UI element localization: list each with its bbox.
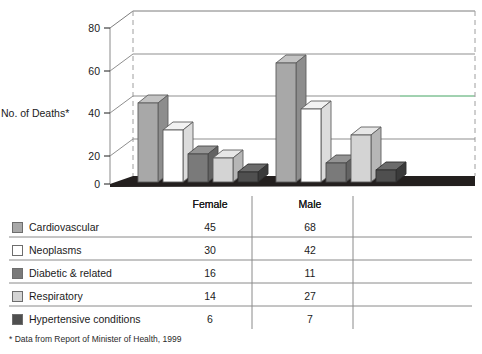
- cell-male-hypertensive-conditions: 7: [270, 313, 350, 326]
- cell-female-cardiovascular: 45: [170, 221, 250, 234]
- cell-male-respiratory: 27: [270, 290, 350, 303]
- category-label-female: Female: [170, 198, 250, 210]
- y-axis-ticks: [104, 28, 110, 184]
- cell-female-hypertensive-conditions: 6: [170, 313, 250, 326]
- footnote-text: * Data from Report of Minister of Health…: [9, 334, 181, 344]
- legend-label-diabetic-and-related: Diabetic & related: [29, 267, 112, 280]
- y-axis-title: No. of Deaths*: [1, 108, 69, 119]
- cell-female-diabetic-and-related: 16: [170, 267, 250, 280]
- legend-label-hypertensive-conditions: Hypertensive conditions: [29, 313, 140, 326]
- legend-swatch-cardiovascular: [12, 222, 23, 233]
- legend-data-table: Female Male Cardiovascular 45 68 Neoplas…: [0, 196, 482, 332]
- legend-swatch-hypertensive-conditions: [12, 314, 23, 325]
- table-row[interactable]: Hypertensive conditions 6 7: [0, 309, 482, 332]
- legend-label-respiratory: Respiratory: [29, 290, 83, 303]
- legend-label-cardiovascular: Cardiovascular: [29, 221, 99, 234]
- chart-plot-svg: [0, 6, 482, 196]
- cell-male-cardiovascular: 68: [270, 221, 350, 234]
- y-tick-0: 0: [74, 179, 100, 189]
- table-row[interactable]: Respiratory 14 27: [0, 286, 482, 309]
- legend-swatch-diabetic-and-related: [12, 268, 23, 279]
- cropped-title-remnant: [0, 0, 482, 3]
- legend-label-neoplasms: Neoplasms: [29, 244, 82, 257]
- cell-female-respiratory: 14: [170, 290, 250, 303]
- cell-female-neoplasms: 30: [170, 244, 250, 257]
- legend-swatch-neoplasms: [12, 245, 23, 256]
- y-tick-20: 20: [74, 151, 100, 161]
- y-tick-80: 80: [74, 23, 100, 33]
- table-row[interactable]: Cardiovascular 45 68: [0, 217, 482, 240]
- y-tick-60: 60: [74, 66, 100, 76]
- cell-male-neoplasms: 42: [270, 244, 350, 257]
- category-label-male: Male: [270, 198, 350, 210]
- y-tick-40: 40: [74, 108, 100, 118]
- table-row[interactable]: Neoplasms 30 42: [0, 240, 482, 263]
- cell-male-diabetic-and-related: 11: [270, 267, 350, 280]
- table-row[interactable]: Diabetic & related 16 11: [0, 263, 482, 286]
- bar-chart: 80 60 40 20 0 No. of Deaths*: [0, 6, 482, 196]
- legend-swatch-respiratory: [12, 291, 23, 302]
- figure-root: 80 60 40 20 0 No. of Deaths* Female: [0, 0, 482, 354]
